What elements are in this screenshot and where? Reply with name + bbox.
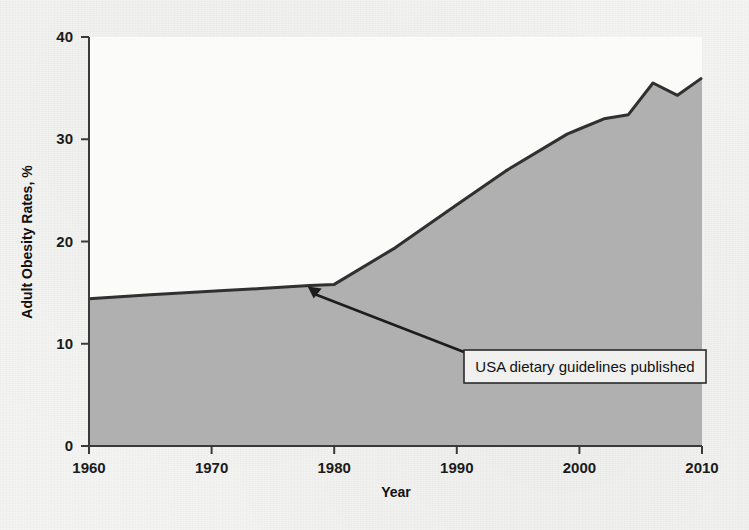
obesity-rate-area-chart: 010203040 196019701980199020002010 Adult… xyxy=(0,0,749,530)
x-axis-ticks: 196019701980199020002010 xyxy=(72,446,718,476)
chart-page: 010203040 196019701980199020002010 Adult… xyxy=(0,0,749,530)
x-tick-label: 2000 xyxy=(563,459,596,476)
y-tick-label: 0 xyxy=(65,437,73,454)
y-axis-title: Adult Obesity Rates, % xyxy=(19,165,35,319)
y-axis-ticks: 010203040 xyxy=(56,28,89,454)
y-tick-label: 30 xyxy=(56,130,73,147)
x-tick-label: 2010 xyxy=(685,459,718,476)
x-tick-label: 1970 xyxy=(195,459,228,476)
x-tick-label: 1980 xyxy=(318,459,351,476)
annotation-callout[interactable]: USA dietary guidelines published xyxy=(464,350,706,383)
x-axis-title: Year xyxy=(381,484,411,500)
x-tick-label: 1960 xyxy=(72,459,105,476)
y-tick-label: 20 xyxy=(56,233,73,250)
y-tick-label: 10 xyxy=(56,335,73,352)
annotation-label: USA dietary guidelines published xyxy=(475,358,694,375)
y-tick-label: 40 xyxy=(56,28,73,45)
x-tick-label: 1990 xyxy=(440,459,473,476)
